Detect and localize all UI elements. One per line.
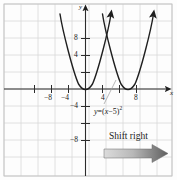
y-axis-name: y bbox=[79, 4, 82, 11]
equation-label: y=(x−5)2 bbox=[94, 106, 122, 116]
y-tick-label-pos8: 8 bbox=[74, 34, 78, 42]
y-tick-label-neg8: −8 bbox=[70, 136, 78, 144]
shift-right-label: Shift right bbox=[109, 132, 148, 142]
x-tick-label-pos4: 4 bbox=[101, 94, 105, 102]
y-tick-label-neg4: −4 bbox=[70, 102, 78, 110]
y-tick-label-pos4: 4 bbox=[74, 51, 78, 59]
coordinate-plane-svg bbox=[0, 0, 177, 180]
x-tick-label-neg8: −8 bbox=[44, 94, 52, 102]
equation-exponent: 2 bbox=[120, 105, 123, 111]
x-tick-label-neg4: −4 bbox=[61, 94, 69, 102]
graph-figure: −8 −4 4 8 8 4 −4 −8 y x y=(x−5)2 Shift r… bbox=[0, 0, 177, 180]
x-tick-label-pos8: 8 bbox=[134, 94, 138, 102]
x-axis-name: x bbox=[170, 90, 173, 97]
